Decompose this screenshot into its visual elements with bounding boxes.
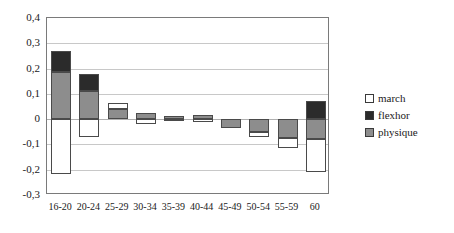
bar-segment-flexhor xyxy=(79,74,99,92)
bar-segment-march xyxy=(164,119,184,121)
plot-area xyxy=(46,17,329,194)
x-axis-tick-label: 55-59 xyxy=(272,202,300,212)
legend-label: march xyxy=(378,93,405,104)
bar-group xyxy=(136,18,156,193)
x-axis-tick-label: 35-39 xyxy=(159,202,187,212)
bar-segment-march xyxy=(278,138,298,148)
x-axis-tick-label: 16-20 xyxy=(46,202,74,212)
y-axis-tick-label: -0,3 xyxy=(0,189,40,200)
legend-label: physique xyxy=(378,127,418,138)
x-axis-tick-label: 25-29 xyxy=(103,202,131,212)
bar-segment-march xyxy=(193,119,213,122)
legend-item: march xyxy=(362,90,448,107)
y-axis-tick-label: 0,4 xyxy=(0,12,40,23)
bar-chart: 0,40,30,20,10-0,1-0,2-0,3 16-2020-2425-2… xyxy=(0,0,454,233)
y-axis-tick-label: 0,1 xyxy=(0,88,40,99)
bar-segment-march xyxy=(306,139,326,172)
bar-segment-march xyxy=(249,132,269,138)
x-axis-tick-label: 45-49 xyxy=(216,202,244,212)
legend-item: flexhor xyxy=(362,107,448,124)
bar-segment-physique xyxy=(108,109,128,119)
bar-group xyxy=(306,18,326,193)
x-axis-tick-label: 40-44 xyxy=(188,202,216,212)
bar-segment-physique xyxy=(306,119,326,139)
bar-segment-physique xyxy=(249,119,269,132)
y-axis-tick-label: 0,2 xyxy=(0,63,40,74)
y-axis-tick-label: -0,2 xyxy=(0,164,40,175)
x-axis-tick-label: 50-54 xyxy=(244,202,272,212)
bar-segment-physique xyxy=(79,91,99,119)
bar-segment-march xyxy=(136,119,156,124)
legend-label: flexhor xyxy=(378,110,410,121)
legend-swatch-icon xyxy=(365,128,374,137)
x-axis-tick-label: 20-24 xyxy=(74,202,102,212)
x-axis-tick-label: 60 xyxy=(301,202,329,212)
bar-group xyxy=(108,18,128,193)
bar-segment-march xyxy=(79,119,99,137)
bar-group xyxy=(193,18,213,193)
bar-group xyxy=(164,18,184,193)
legend-swatch-icon xyxy=(365,111,374,120)
bar-segment-march xyxy=(51,119,71,173)
bar-group xyxy=(51,18,71,193)
bar-segment-physique xyxy=(51,72,71,119)
y-axis-tick-label: -0,1 xyxy=(0,138,40,149)
bar-segment-physique xyxy=(278,119,298,138)
x-axis-tick-label: 30-34 xyxy=(131,202,159,212)
bar-group xyxy=(278,18,298,193)
legend-swatch-icon xyxy=(365,94,374,103)
y-axis-tick-label: 0,3 xyxy=(0,37,40,48)
bar-group xyxy=(221,18,241,193)
bar-group xyxy=(249,18,269,193)
y-axis-tick-label: 0 xyxy=(0,113,40,124)
bar-segment-physique xyxy=(221,119,241,128)
legend-item: physique xyxy=(362,124,448,141)
bar-segment-flexhor xyxy=(51,51,71,72)
bar-segment-flexhor xyxy=(306,101,326,119)
chart-legend: marchflexhorphysique xyxy=(362,88,448,144)
bar-group xyxy=(79,18,99,193)
